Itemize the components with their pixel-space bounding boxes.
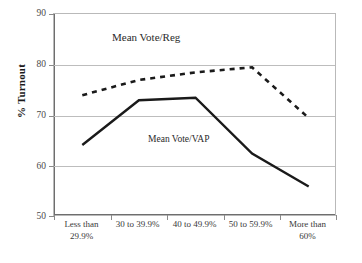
turnout-line-chart: % Turnout 90 80 70 60 50 — [0, 0, 362, 263]
y-tick-label-80: 80 — [24, 59, 46, 69]
x-axis-tick-labels: Less than 29.9% 30 to 39.9% 40 to 49.9% … — [53, 219, 336, 253]
series-annotation-mean-vote-reg: Mean Vote/Reg — [112, 31, 180, 43]
y-axis-tick-labels: 90 80 70 60 50 — [22, 0, 46, 263]
series-lines — [54, 14, 337, 217]
y-tick-label-50: 50 — [24, 211, 46, 221]
y-tick-label-70: 70 — [24, 110, 46, 120]
line-mean-vote-reg — [82, 67, 308, 118]
series-annotation-mean-vote-vap: Mean Vote/VAP — [148, 134, 210, 144]
plot-area — [53, 13, 336, 216]
y-tick-label-90: 90 — [24, 8, 46, 18]
y-tick-label-60: 60 — [24, 161, 46, 171]
x-tick-label-4: More than 60% — [270, 219, 345, 242]
